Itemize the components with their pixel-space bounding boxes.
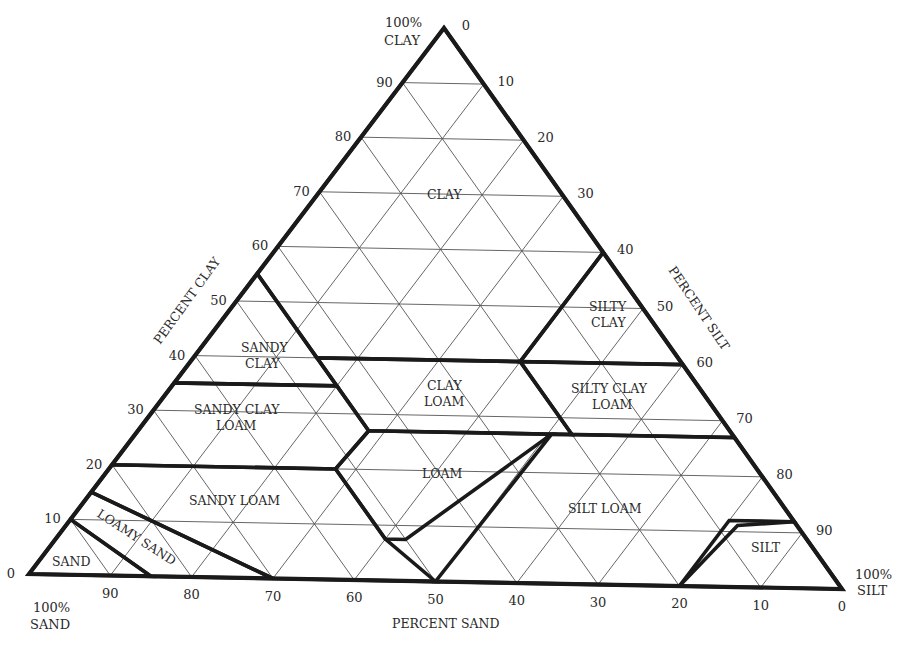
region-label-sandy-clay-1: SANDY [241, 340, 289, 355]
region-label-silty-clay-2: CLAY [591, 315, 626, 330]
tick-clay-20: 20 [86, 457, 103, 472]
tick-clay-0: 0 [7, 566, 15, 581]
grid-line-clay-90 [403, 83, 484, 85]
soil-texture-triangle: 100% CLAY 100% SAND 100% SILT PERCENT CL… [0, 0, 908, 649]
grid-line-clay-10 [71, 519, 803, 533]
vertex-label-sand-pct: 100% [33, 600, 70, 615]
region-label-silt: SILT [751, 540, 781, 555]
tick-sand-40: 40 [509, 593, 526, 608]
grid-line-silt-30 [273, 196, 564, 578]
region-label-silty-clay-loam-1: SILTY CLAY [571, 381, 648, 396]
region-loam [336, 431, 552, 540]
grid-line-clay-60 [278, 246, 603, 252]
tick-sand-30: 30 [590, 595, 607, 610]
tick-silt-50: 50 [657, 299, 674, 314]
region-label-sandy-clay-loam-1: SANDY CLAY [194, 402, 280, 417]
tick-silt-80: 80 [776, 467, 793, 482]
region-label-sand: SAND [52, 554, 91, 569]
region-label-silty-clay-loam-2: LOAM [592, 397, 633, 412]
grid-line-clay-80 [361, 137, 524, 140]
axis-title-silt: PERCENT SILT [666, 263, 734, 353]
tick-silt-20: 20 [537, 130, 554, 145]
region-label-loam: LOAM [422, 466, 463, 481]
axis-title-sand: PERCENT SAND [392, 616, 499, 631]
tick-clay-10: 10 [44, 511, 61, 526]
vertex-label-clay-pct: 100% [385, 15, 422, 30]
region-label-clay-loam-1: CLAY [427, 378, 462, 393]
tick-sand-20: 20 [671, 596, 688, 611]
tick-clay-60: 60 [252, 238, 269, 253]
region-label-silt-loam: SILT LOAM [568, 501, 642, 516]
region-label-sandy-clay-loam-2: LOAM [216, 418, 257, 433]
tick-silt-60: 60 [697, 355, 714, 370]
tick-clay-70: 70 [293, 184, 310, 199]
grid-line-sand-40 [278, 246, 517, 583]
region-label-sandy-clay-2: CLAY [245, 356, 280, 371]
vertex-label-clay: CLAY [384, 33, 420, 48]
tick-silt-40: 40 [617, 242, 634, 257]
tick-silt-90: 90 [816, 523, 833, 538]
region-label-clay: CLAY [427, 187, 462, 202]
tick-sand-60: 60 [346, 590, 363, 605]
texture-class-boundaries [29, 28, 842, 589]
tick-clay-80: 80 [335, 129, 352, 144]
tick-sand-70: 70 [265, 589, 282, 604]
vertex-label-silt-pct: 100% [855, 567, 892, 582]
tick-silt-0: 0 [462, 18, 470, 33]
region-labels: CLAY SILTY CLAY SANDY CLAY CLAY LOAM SIL… [52, 187, 781, 569]
grid-lines [71, 83, 803, 588]
vertex-label-silt: SILT [857, 583, 888, 598]
region-label-silty-clay-1: SILTY [589, 299, 627, 314]
triangle-outline [29, 28, 842, 589]
tick-silt-30: 30 [577, 186, 594, 201]
tick-clay-50: 50 [210, 293, 227, 308]
tick-silt-70: 70 [736, 411, 753, 426]
region-label-clay-loam-2: LOAM [424, 394, 465, 409]
tick-clay-40: 40 [169, 348, 186, 363]
tick-clay-90: 90 [376, 75, 393, 90]
tick-silt-10: 10 [498, 74, 515, 89]
tick-sand-50: 50 [427, 592, 444, 607]
tick-sand-80: 80 [183, 587, 200, 602]
tick-sand-10: 10 [752, 598, 769, 613]
tick-clay-30: 30 [127, 402, 144, 417]
tick-sand-0: 0 [838, 599, 846, 614]
tick-sand-90: 90 [102, 586, 119, 601]
vertex-label-sand: SAND [30, 617, 70, 632]
region-label-sandy-loam: SANDY LOAM [189, 493, 280, 508]
grid-line-clay-50 [237, 301, 644, 309]
